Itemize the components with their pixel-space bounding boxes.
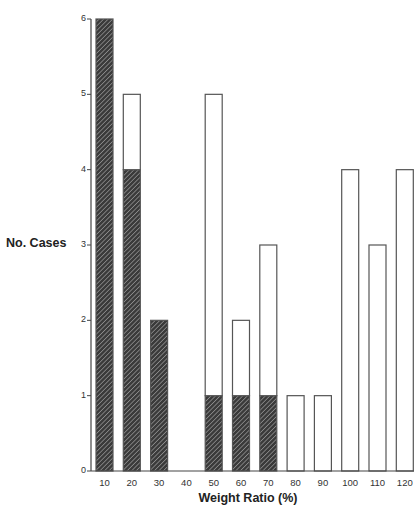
bar-segment-hatched	[205, 396, 222, 471]
x-tick-label: 20	[117, 477, 147, 488]
x-tick-label: 60	[226, 477, 256, 488]
x-tick-label: 90	[308, 477, 338, 488]
bar-segment-hatched	[96, 19, 113, 471]
x-tick-label: 70	[253, 477, 283, 488]
y-tick-label: 0	[72, 465, 86, 475]
x-axis-label: Weight Ratio (%)	[0, 491, 416, 505]
plot-area	[96, 19, 413, 471]
y-tick-label: 1	[72, 390, 86, 400]
stacked-bar-chart	[0, 0, 416, 515]
bar-segment-open	[123, 94, 140, 169]
y-tick-label: 5	[72, 88, 86, 98]
bar-segment-open	[369, 245, 386, 471]
bar-segment-open	[233, 320, 250, 395]
x-tick-label: 110	[363, 477, 393, 488]
y-tick-label: 6	[72, 13, 86, 23]
bar-segment-hatched	[233, 396, 250, 471]
bar-segment-open	[287, 396, 304, 471]
bar-segment-open	[260, 245, 277, 396]
x-tick-label: 120	[390, 477, 416, 488]
bar-segment-hatched	[123, 170, 140, 471]
x-tick-label: 100	[335, 477, 365, 488]
y-tick-label: 3	[72, 239, 86, 249]
x-tick-label: 30	[144, 477, 174, 488]
x-tick-label: 50	[199, 477, 229, 488]
y-tick-label: 4	[72, 164, 86, 174]
x-tick-label: 40	[171, 477, 201, 488]
bar-segment-hatched	[260, 396, 277, 471]
bar-segment-open	[342, 170, 359, 471]
x-tick-label: 80	[281, 477, 311, 488]
y-tick-label: 2	[72, 314, 86, 324]
y-axis-label: No. Cases	[6, 236, 66, 250]
bar-segment-open	[205, 94, 222, 395]
bar-segment-hatched	[151, 320, 168, 471]
x-tick-label: 10	[90, 477, 120, 488]
bar-segment-open	[314, 396, 331, 471]
bar-segment-open	[396, 170, 413, 471]
